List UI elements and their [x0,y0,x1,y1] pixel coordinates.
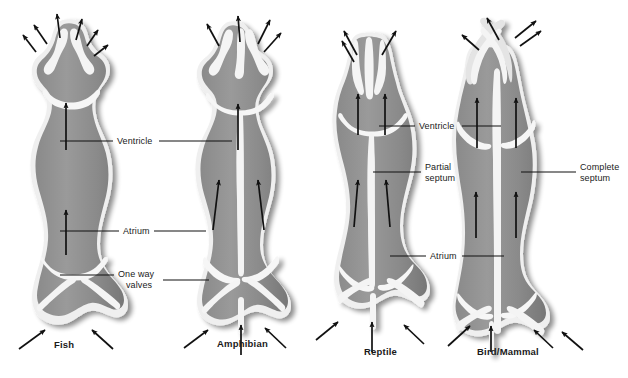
heart-diagram-figure: Ventricle Atrium One way valves Ventricl… [0,0,628,378]
reptile-heart [332,33,430,330]
bird-mammal-inflow-arrow-4 [562,332,583,350]
reptile-inflow-arrow-left [316,322,338,340]
label-partial-septum-line2: septum [425,173,455,185]
label-fish: Fish [54,339,74,350]
amphibian-inflow-arrow-left [184,330,208,348]
label-complete-septum-line2: septum [580,173,610,185]
fish-outflow-arrow-1 [23,35,36,52]
fish-outflow-arrow-2 [34,25,47,44]
label-partial-septum-line1: Partial [425,162,451,174]
reptile-inflow-lining-mid [370,293,376,330]
label-atrium-left: Atrium [123,226,150,237]
label-complete-septum-line1: Complete [580,162,619,174]
bird-mammal-outflow-arrow-right2 [520,31,541,46]
label-one-way-valves-line2: valves [126,280,152,292]
label-atrium-right: Atrium [430,251,457,262]
label-bird-mammal: Bird/Mammal [477,346,539,357]
amphibian-outflow-arrow-right2 [264,33,281,52]
label-reptile: Reptile [364,346,397,357]
fish-inflow-arrow-right [92,330,113,349]
heart-diagram-artwork [0,0,628,378]
amphibian-outflow-arrow-right [258,20,270,44]
fish-heart [0,0,128,325]
amphibian-heart [195,21,291,334]
bird-mammal-outflow-arrow-right [515,21,536,38]
amphibian-inflow-arrow-right [265,328,286,348]
fish-inflow-arrow-left [19,330,45,349]
label-ventricle-right: Ventricle [419,121,454,132]
reptile-inflow-arrow-right [404,325,424,344]
reptile-outflow-septum [365,37,374,100]
reptile-partial-septum [368,149,375,185]
amphibian-outflow-arrow-left [207,24,219,46]
label-ventricle-left: Ventricle [117,136,152,147]
label-amphibian: Amphibian [217,338,268,349]
bird-mammal-heart [452,18,550,356]
label-one-way-valves-line1: One way [118,269,154,281]
